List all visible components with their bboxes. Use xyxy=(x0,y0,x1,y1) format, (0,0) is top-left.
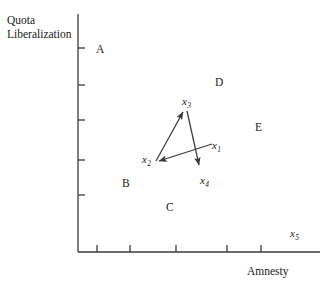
policy-space-diagram: QuotaLiberalization Amnesty A D E B C x1… xyxy=(0,0,326,286)
variable-label-x4: x4 xyxy=(200,174,209,187)
y-axis-caption-line1: Quota xyxy=(7,14,35,26)
arrow-x1-to-x2 xyxy=(159,144,212,161)
axes-and-arrows-canvas xyxy=(0,0,326,286)
transition-arrows xyxy=(156,111,212,165)
variable-label-x3: x3 xyxy=(182,95,191,108)
variable-label-x2: x2 xyxy=(142,153,151,166)
y-axis-caption: QuotaLiberalization xyxy=(7,14,72,41)
variable-label-x5: x5 xyxy=(290,227,299,240)
arrow-x2-to-x3 xyxy=(156,112,183,161)
variable-subscript-x1: 1 xyxy=(217,145,221,154)
x-axis-caption: Amnesty xyxy=(247,265,289,279)
region-label-b: B xyxy=(122,177,130,191)
region-label-d: D xyxy=(215,76,224,90)
region-label-e: E xyxy=(255,121,262,135)
arrow-x3-to-x4 xyxy=(187,111,199,165)
variable-subscript-x5: 5 xyxy=(295,233,299,242)
region-label-a: A xyxy=(96,43,105,57)
variable-subscript-x4: 4 xyxy=(205,180,209,189)
variable-subscript-x3: 3 xyxy=(187,101,191,110)
region-label-c: C xyxy=(166,201,174,215)
x-axis xyxy=(78,245,320,252)
variable-subscript-x2: 2 xyxy=(147,159,151,168)
variable-label-x1: x1 xyxy=(212,139,221,152)
y-axis-caption-line2: Liberalization xyxy=(7,28,72,40)
y-axis xyxy=(78,14,85,252)
